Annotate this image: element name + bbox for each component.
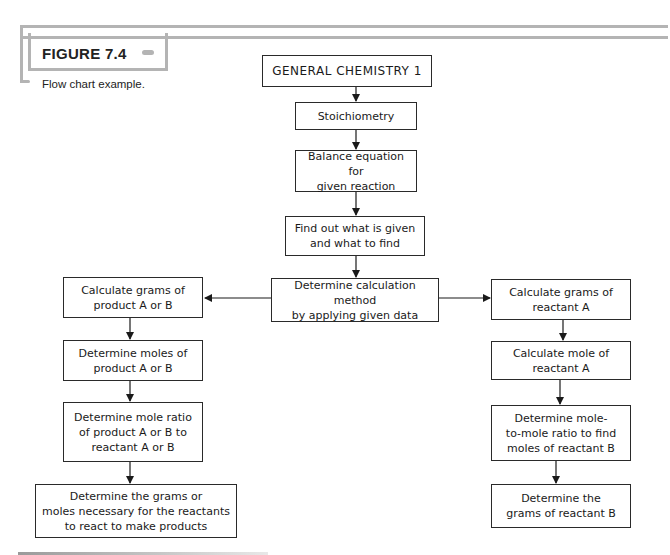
node-general-chemistry: GENERAL CHEMISTRY 1	[262, 55, 432, 87]
node-grams-reactant-b: Determine the grams of reactant B	[491, 484, 631, 528]
node-grams-reactants: Determine the grams or moles necessary f…	[35, 484, 237, 538]
node-calc-grams-product: Calculate grams of product A or B	[63, 277, 203, 318]
node-moles-product: Determine moles of product A or B	[63, 340, 203, 381]
node-calc-mole-reactant-a: Calculate mole of reactant A	[491, 341, 631, 380]
node-stoichiometry: Stoichiometry	[295, 102, 417, 130]
node-balance-equation: Balance equation for given reaction	[295, 150, 417, 192]
node-calc-grams-reactant-a: Calculate grams of reactant A	[491, 279, 631, 320]
node-mole-ratio-product: Determine mole ratio of product A or B t…	[63, 402, 203, 462]
node-mole-to-mole-ratio: Determine mole- to-mole ratio to find mo…	[491, 405, 631, 461]
node-determine-method: Determine calculation method by applying…	[271, 278, 439, 322]
node-find-given: Find out what is given and what to find	[285, 216, 425, 256]
